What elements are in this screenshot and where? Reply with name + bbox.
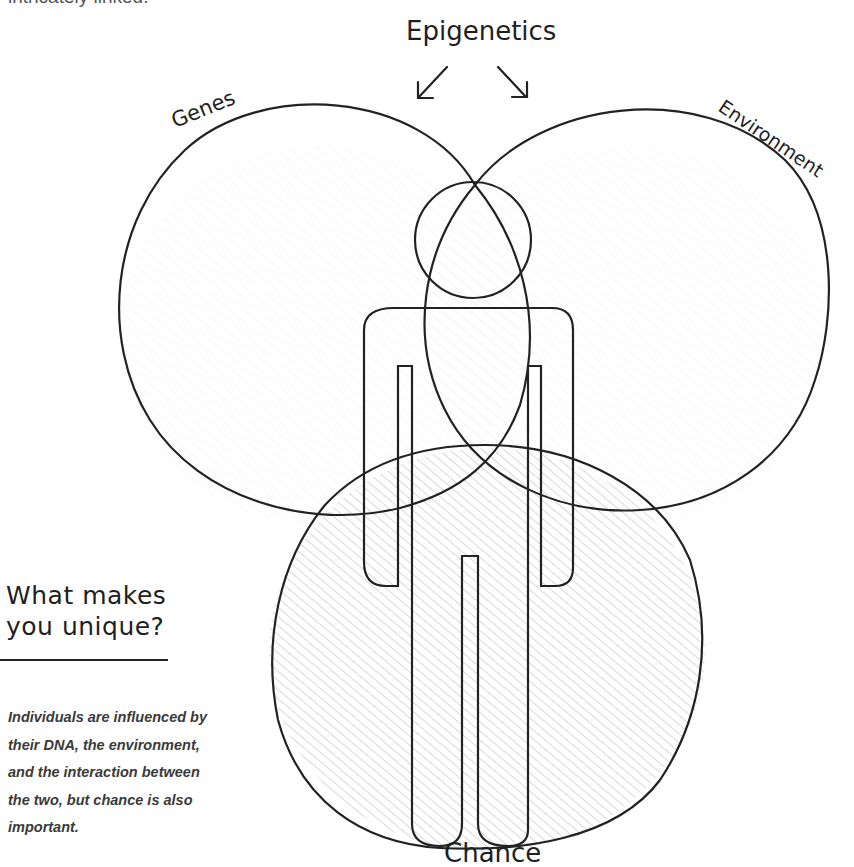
label-chance: Chance [444,838,541,867]
arrow-down-right-icon [498,67,527,97]
sidebar-title-line1: What makes [6,580,206,611]
sidebar-title: What makes you unique? [6,580,206,642]
sidebar-title-line2: you unique? [6,611,206,642]
label-epigenetics: Epigenetics [406,16,556,46]
sidebar-body-text: Individuals are influenced by their DNA,… [8,704,218,842]
label-genes: Genes [168,86,239,133]
arrow-down-left-icon [418,67,447,98]
sidebar-divider [0,659,168,661]
label-environment: Environment [715,95,828,181]
chance-circle-fill [269,448,705,852]
